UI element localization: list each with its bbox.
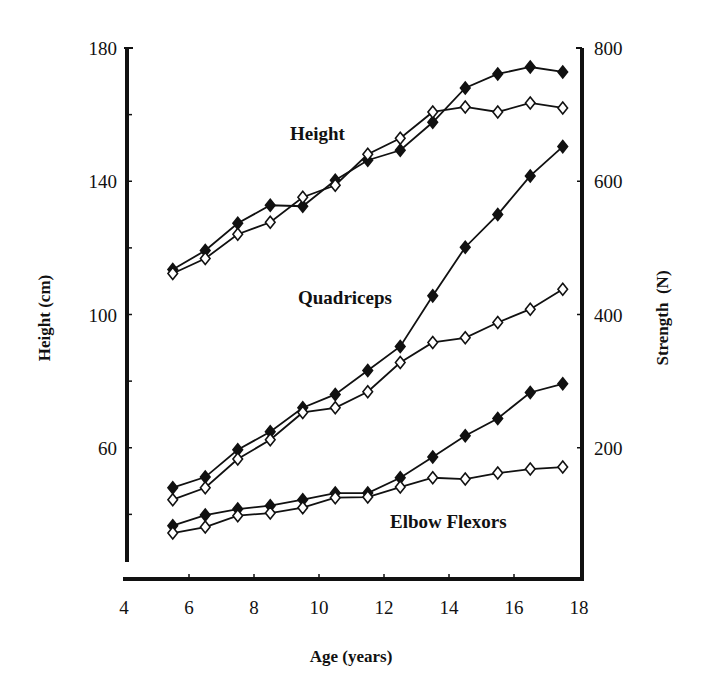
open-diamond-marker-icon	[265, 434, 275, 446]
growth-strength-chart: 601001401802004006008004681012141618 Age…	[0, 0, 707, 697]
x-tick-label: 16	[505, 597, 524, 618]
right-y-tick-label: 400	[594, 305, 623, 326]
filled-diamond-marker-icon	[493, 68, 503, 80]
series-elbow-flexors-open	[168, 461, 568, 539]
series-line	[173, 147, 563, 488]
x-tick-label: 14	[440, 597, 460, 618]
open-diamond-marker-icon	[525, 97, 535, 109]
filled-diamond-marker-icon	[330, 388, 340, 400]
right-y-tick-label: 800	[594, 38, 623, 59]
series-label-quadriceps: Quadriceps	[298, 287, 392, 308]
series-label-elbow-flexors: Elbow Flexors	[390, 511, 507, 532]
filled-diamond-marker-icon	[428, 451, 438, 463]
open-diamond-marker-icon	[265, 216, 275, 228]
open-diamond-marker-icon	[200, 482, 210, 494]
open-diamond-marker-icon	[493, 316, 503, 328]
filled-diamond-marker-icon	[265, 199, 275, 211]
filled-diamond-marker-icon	[395, 144, 405, 156]
open-diamond-marker-icon	[525, 463, 535, 475]
left-y-tick-label: 60	[98, 438, 117, 459]
open-diamond-marker-icon	[493, 467, 503, 479]
filled-diamond-marker-icon	[363, 364, 373, 376]
open-diamond-marker-icon	[460, 473, 470, 485]
filled-diamond-marker-icon	[460, 430, 470, 442]
filled-diamond-marker-icon	[525, 386, 535, 398]
left-y-tick-label: 180	[89, 38, 118, 59]
open-diamond-marker-icon	[200, 253, 210, 265]
x-axis-title: Age (years)	[310, 647, 393, 666]
open-diamond-marker-icon	[330, 402, 340, 414]
filled-diamond-marker-icon	[168, 482, 178, 494]
open-diamond-marker-icon	[460, 101, 470, 113]
open-diamond-marker-icon	[265, 507, 275, 519]
open-diamond-marker-icon	[558, 461, 568, 473]
open-diamond-marker-icon	[460, 332, 470, 344]
right-y-axis-title: Strength (N)	[653, 270, 672, 365]
open-diamond-marker-icon	[233, 453, 243, 465]
filled-diamond-marker-icon	[493, 412, 503, 424]
open-diamond-marker-icon	[558, 283, 568, 295]
open-diamond-marker-icon	[298, 191, 308, 203]
x-tick-label: 8	[249, 597, 259, 618]
x-tick-label: 4	[119, 597, 129, 618]
open-diamond-marker-icon	[233, 228, 243, 240]
left-y-tick-label: 140	[89, 171, 118, 192]
filled-diamond-marker-icon	[558, 378, 568, 390]
x-tick-label: 10	[310, 597, 329, 618]
series-label-height: Height	[290, 123, 346, 144]
open-diamond-marker-icon	[200, 521, 210, 533]
open-diamond-marker-icon	[395, 481, 405, 493]
open-diamond-marker-icon	[168, 494, 178, 506]
open-diamond-marker-icon	[558, 102, 568, 114]
open-diamond-marker-icon	[428, 106, 438, 118]
series-line	[173, 103, 563, 274]
series-elbow-flexors-filled	[168, 378, 568, 532]
x-tick-label: 6	[184, 597, 194, 618]
open-diamond-marker-icon	[428, 336, 438, 348]
x-tick-label: 18	[570, 597, 589, 618]
right-y-tick-label: 200	[594, 438, 623, 459]
series-height-open	[168, 97, 568, 280]
open-diamond-marker-icon	[493, 106, 503, 118]
open-diamond-marker-icon	[168, 527, 178, 539]
series-height-filled	[168, 61, 568, 276]
filled-diamond-marker-icon	[558, 66, 568, 78]
open-diamond-marker-icon	[525, 303, 535, 315]
left-y-axis-title: Height (cm)	[35, 275, 54, 361]
left-y-tick-label: 100	[89, 305, 118, 326]
right-y-tick-label: 600	[594, 171, 623, 192]
filled-diamond-marker-icon	[525, 61, 535, 73]
series-quadriceps-filled	[168, 141, 568, 494]
open-diamond-marker-icon	[298, 502, 308, 514]
open-diamond-marker-icon	[395, 132, 405, 144]
filled-diamond-marker-icon	[200, 509, 210, 521]
x-tick-label: 12	[375, 597, 394, 618]
open-diamond-marker-icon	[428, 472, 438, 484]
